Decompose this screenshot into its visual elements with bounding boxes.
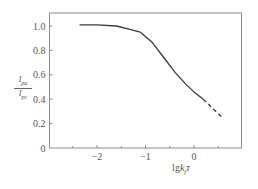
x-tick-label: −1: [140, 151, 151, 162]
x-tick-label: 0: [192, 151, 197, 162]
plot-frame: [50, 13, 242, 148]
solid-curve: [80, 25, 204, 99]
y-axis-label: Ipa Ipc: [14, 75, 32, 101]
dashed-curve: [203, 99, 222, 117]
chart-canvas: 00.20.40.60.81.0 −2−10: [0, 0, 258, 189]
y-tick-label: 0.4: [33, 94, 46, 105]
x-tick-label: −2: [92, 151, 103, 162]
y-axis-label-numerator: Ipa: [14, 75, 32, 89]
y-tick-label: 1.0: [33, 21, 46, 32]
y-tick-label: 0.8: [33, 45, 46, 56]
y-tick-label: 0: [41, 143, 46, 154]
y-axis-label-denominator: Ipc: [14, 89, 32, 102]
x-axis-label: lgkfτ: [172, 162, 190, 176]
data-series: [80, 25, 223, 118]
y-tick-label: 0.6: [33, 69, 46, 80]
y-tick-label: 0.2: [33, 118, 46, 129]
